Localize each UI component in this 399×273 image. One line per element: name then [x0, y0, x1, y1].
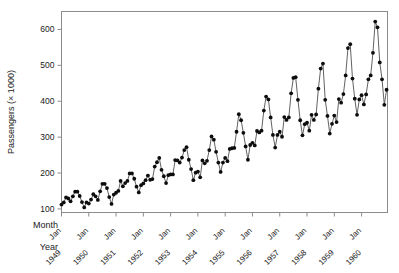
data-point	[269, 115, 273, 119]
data-point	[301, 133, 305, 137]
data-point	[214, 150, 218, 154]
x-axis-label: 1953	[153, 248, 172, 267]
y-tick-label: 400	[40, 96, 54, 106]
data-point	[105, 186, 109, 190]
data-point	[157, 156, 161, 160]
data-point	[153, 165, 157, 169]
x-axis-label: 1952	[126, 248, 145, 267]
y-tick-label: 500	[40, 60, 54, 70]
data-point	[348, 42, 352, 46]
x-axis-label: Jan	[348, 226, 363, 241]
data-point	[121, 184, 125, 188]
data-point	[164, 181, 168, 185]
data-point	[380, 77, 384, 81]
x-axis-label: Jan	[238, 226, 253, 241]
y-tick-label: 300	[40, 132, 54, 142]
data-point	[198, 175, 202, 179]
plot-frame	[62, 12, 388, 213]
data-point	[191, 178, 195, 182]
data-point	[160, 168, 164, 172]
data-point	[353, 97, 357, 101]
data-point	[287, 115, 291, 119]
data-point	[326, 114, 330, 118]
data-point	[141, 182, 145, 186]
data-point	[180, 156, 184, 160]
data-point	[119, 179, 123, 183]
data-point	[278, 130, 282, 134]
x-axis-label: Jan	[266, 226, 281, 241]
x-axis-label: Jan	[102, 226, 117, 241]
data-point	[310, 113, 314, 117]
data-point	[371, 51, 375, 55]
data-point	[294, 75, 298, 79]
data-point	[155, 160, 159, 164]
data-point	[330, 122, 334, 126]
data-point	[337, 97, 341, 101]
y-tick-label: 200	[40, 168, 54, 178]
data-point	[89, 198, 93, 202]
data-point	[339, 101, 343, 105]
data-point	[271, 133, 275, 137]
data-point	[369, 73, 373, 77]
data-point	[69, 199, 73, 203]
data-point	[298, 118, 302, 122]
data-point	[235, 130, 239, 134]
y-tick-label: 600	[40, 24, 54, 34]
data-point	[146, 174, 150, 178]
x-axis-label: Jan	[184, 226, 199, 241]
x-axis-label: 1950	[71, 248, 90, 267]
x-axis-label: 1958	[289, 248, 308, 267]
data-point	[357, 98, 361, 102]
data-point	[289, 91, 293, 95]
x-axis-label: Jan	[157, 226, 172, 241]
data-point	[273, 146, 277, 150]
data-point	[132, 177, 136, 181]
data-point	[319, 67, 323, 71]
data-point	[130, 171, 134, 175]
data-point	[98, 189, 102, 193]
data-point	[207, 148, 211, 152]
data-point	[221, 161, 225, 165]
data-point	[266, 98, 270, 102]
series-line	[62, 22, 387, 208]
data-point	[78, 194, 82, 198]
x-axis-label: 1951	[99, 248, 118, 267]
x-axis-label: Jan	[293, 226, 308, 241]
data-point	[355, 113, 359, 117]
x-axis-label: 1959	[317, 248, 336, 267]
x-axis-label: 1957	[262, 248, 281, 267]
data-point	[335, 120, 339, 124]
data-point	[342, 92, 346, 96]
data-point	[321, 62, 325, 66]
data-point	[346, 46, 350, 50]
series-markers	[60, 20, 389, 210]
data-point	[376, 25, 380, 29]
x-axis-label: 1955	[208, 248, 227, 267]
x-axis	[62, 213, 362, 217]
data-point	[262, 109, 266, 113]
data-point	[367, 77, 371, 81]
data-point	[360, 93, 364, 97]
data-point	[162, 174, 166, 178]
data-point	[110, 202, 114, 206]
data-point	[216, 161, 220, 165]
data-point	[94, 194, 98, 198]
data-point	[137, 191, 141, 195]
x-axis-label: Jan	[75, 226, 90, 241]
data-point	[187, 158, 191, 162]
data-point	[223, 156, 227, 160]
x-axis-label: 1956	[235, 248, 254, 267]
data-point	[373, 20, 377, 24]
data-point	[185, 145, 189, 149]
data-point	[82, 206, 86, 210]
data-point	[344, 73, 348, 77]
data-point	[178, 161, 182, 165]
data-point	[246, 158, 250, 162]
data-point	[314, 113, 318, 117]
data-point	[80, 200, 84, 204]
data-point	[385, 88, 389, 92]
y-axis: 100200300400500600	[40, 24, 61, 213]
data-point	[126, 179, 130, 183]
data-point	[116, 189, 120, 193]
data-point	[212, 138, 216, 142]
